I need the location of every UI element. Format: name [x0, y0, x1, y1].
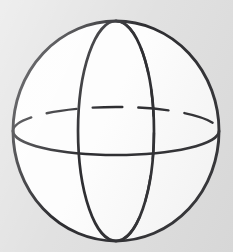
- figure-canvas: Sphere with four great circles Line draw…: [0, 0, 233, 252]
- sphere-diagram: Sphere with four great circles Line draw…: [0, 0, 233, 252]
- sphere-outline-circle: [13, 21, 219, 241]
